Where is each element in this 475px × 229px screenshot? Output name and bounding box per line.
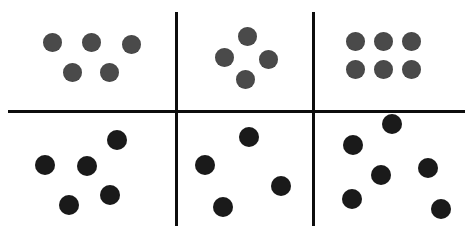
dot <box>342 189 362 209</box>
dot <box>343 135 363 155</box>
dot <box>431 199 451 219</box>
dot <box>382 114 402 134</box>
panel-bottom-right <box>0 0 475 229</box>
dot <box>371 165 391 185</box>
dot <box>418 158 438 178</box>
dot-pattern-figure <box>0 0 475 229</box>
